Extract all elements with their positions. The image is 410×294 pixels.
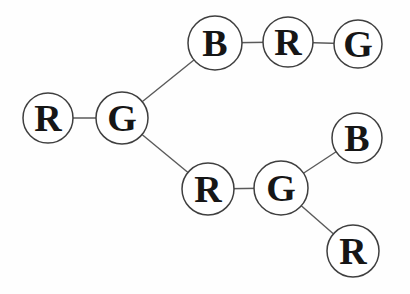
nodes-layer: BRGRGRGBR <box>23 16 382 277</box>
graph-node-r-n2: R <box>263 17 313 67</box>
node-label: G <box>343 23 373 65</box>
node-label: R <box>194 168 222 210</box>
node-label: G <box>266 167 296 209</box>
node-label: R <box>274 21 302 63</box>
node-label: G <box>107 97 137 139</box>
graph-node-g-n3: G <box>334 20 382 68</box>
edges-layer <box>48 42 358 251</box>
node-label: B <box>202 22 227 64</box>
node-label: B <box>344 117 369 159</box>
node-label: R <box>339 230 367 272</box>
graph-diagram: BRGRGRGBR <box>0 0 410 294</box>
graph-canvas: BRGRGRGBR <box>0 0 410 294</box>
graph-node-g-n5: G <box>96 92 148 144</box>
graph-node-b-n8: B <box>332 113 382 163</box>
graph-node-b-n1: B <box>188 16 242 70</box>
node-label: R <box>34 97 62 139</box>
graph-node-r-n6: R <box>182 163 234 215</box>
graph-node-r-n9: R <box>327 225 379 277</box>
graph-node-r-n4: R <box>23 93 73 143</box>
graph-node-g-n7: G <box>254 161 308 215</box>
